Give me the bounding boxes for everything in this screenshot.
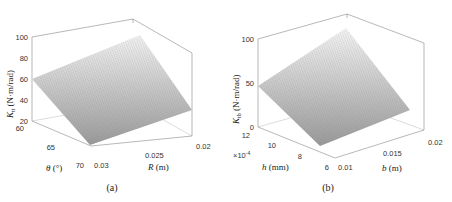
svg-text:60: 60 (20, 75, 28, 84)
svg-text:60: 60 (16, 124, 24, 133)
z-label-a: Ktt (N·m/rad) (5, 70, 16, 119)
svg-text:40: 40 (20, 96, 28, 105)
svg-text:0: 0 (250, 123, 254, 132)
svg-text:10: 10 (268, 141, 276, 150)
y-label-a: θ (°) (46, 163, 62, 173)
figure: 100 80 60 40 20 60 65 70 0.03 0.025 0.02… (0, 0, 452, 202)
svg-text:0.025: 0.025 (145, 151, 164, 160)
caption-a: (a) (106, 182, 117, 194)
svg-text:70: 70 (76, 161, 84, 170)
z-ticks-a: 100 80 60 40 20 (15, 33, 28, 126)
z-label-b: Ktb (N·m/rad) (231, 75, 242, 125)
svg-text:50: 50 (246, 79, 254, 88)
y-multiplier-b: ×10-4 (233, 150, 250, 160)
svg-text:12: 12 (242, 131, 250, 140)
panel-a: 100 80 60 40 20 60 65 70 0.03 0.025 0.02… (5, 19, 211, 194)
x-label-a: R (m) (147, 162, 169, 172)
svg-text:0.015: 0.015 (383, 149, 402, 158)
svg-text:100: 100 (241, 35, 254, 44)
svg-text:65: 65 (47, 143, 55, 152)
svg-text:100: 100 (15, 33, 28, 42)
z-ticks-b: 100 50 0 (241, 35, 254, 132)
svg-text:80: 80 (20, 54, 28, 63)
caption-b: (b) (322, 182, 334, 194)
svg-text:0.01: 0.01 (338, 163, 353, 172)
svg-text:6: 6 (325, 163, 329, 172)
svg-text:0.02: 0.02 (196, 142, 211, 151)
svg-text:0.02: 0.02 (428, 138, 443, 147)
x-label-b: b (m) (382, 163, 402, 173)
svg-text:0.03: 0.03 (94, 161, 109, 170)
svg-text:8: 8 (298, 152, 302, 161)
panel-b: 100 50 0 12 10 8 6 ×10-4 0.01 0.015 0.02… (231, 14, 443, 194)
y-label-b: h (mm) (262, 162, 289, 172)
